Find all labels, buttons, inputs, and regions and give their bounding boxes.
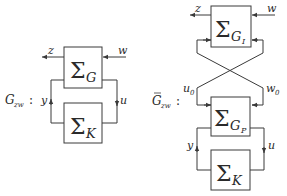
signal-u0-sub: 0	[190, 89, 195, 97]
upper-right-feed	[252, 40, 263, 53]
upper-left-feed	[197, 40, 211, 53]
signal-u-label-right: u	[268, 139, 275, 152]
sigma-g-symbol: Σ	[70, 58, 86, 83]
signal-z-label: z	[47, 44, 54, 57]
u0-feed	[197, 88, 211, 105]
signal-u-label: u	[120, 94, 127, 107]
sigma-k-sub-right: K	[231, 173, 243, 188]
y-loop-right	[197, 128, 211, 170]
sigma-g-sub: G	[86, 70, 96, 85]
system-label-gbar-sub: zw	[160, 102, 171, 110]
sigma-gp-sub: G	[230, 118, 240, 133]
system-label-colon: :	[29, 93, 33, 107]
signal-y-label: y	[40, 94, 48, 107]
y-loop	[51, 80, 64, 123]
sigma-k-sub: K	[85, 126, 97, 141]
block-diagrams: Σ G Σ K z w y u G zw : Σ G I	[0, 0, 287, 196]
system-label-colon-right: :	[176, 94, 180, 108]
sigma-k-symbol-right: Σ	[216, 161, 232, 186]
signal-w0-sub: 0	[275, 89, 280, 97]
sigma-gi-sub: G	[231, 29, 241, 44]
sigma-gi-symbol: Σ	[215, 17, 231, 42]
signal-y-label-right: y	[186, 139, 194, 152]
sigma-k-symbol: Σ	[70, 114, 86, 139]
signal-w-label-right: w	[267, 2, 277, 15]
system-label-g-sub: zw	[13, 101, 24, 109]
sigma-gp-symbol: Σ	[214, 106, 230, 131]
u-loop	[102, 80, 117, 123]
w0-feed	[252, 88, 263, 105]
sigma-gp-subsub: P	[240, 126, 247, 135]
signal-w-label: w	[118, 44, 128, 57]
signal-z-label-right: z	[194, 2, 201, 15]
u-loop-right	[250, 128, 264, 170]
